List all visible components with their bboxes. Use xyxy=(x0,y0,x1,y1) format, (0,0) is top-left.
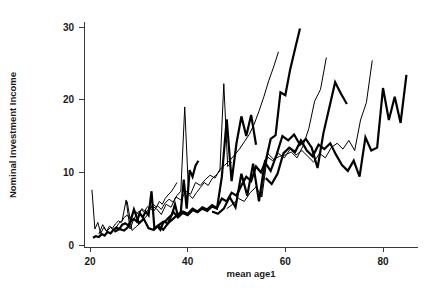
y-tick-label: 30 xyxy=(63,22,75,33)
chart-background xyxy=(0,0,425,293)
y-tick-label: 10 xyxy=(63,167,75,178)
x-tick-label: 80 xyxy=(377,256,389,267)
x-axis-title: mean age1 xyxy=(226,268,276,279)
chart-figure: 204060800102030 mean age1 Nominal Invest… xyxy=(0,0,425,293)
y-axis-title: Nominal Investment Income xyxy=(7,72,18,198)
x-tick-label: 60 xyxy=(280,256,292,267)
y-tick-label: 0 xyxy=(68,240,74,251)
x-tick-label: 20 xyxy=(84,256,96,267)
x-tick-label: 40 xyxy=(182,256,194,267)
line-chart-canvas: 204060800102030 mean age1 Nominal Invest… xyxy=(0,0,425,293)
y-tick-label: 20 xyxy=(63,94,75,105)
